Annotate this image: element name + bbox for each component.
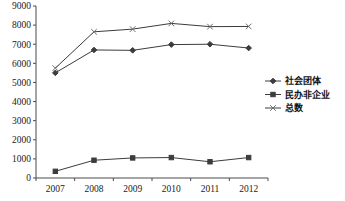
series-1-pt-4-marker-diamond — [207, 41, 213, 47]
y-tick-label: 8000 — [12, 20, 31, 30]
series-1-pt-2-marker-diamond — [130, 48, 136, 54]
series-1-pt-0-marker-diamond — [53, 70, 59, 76]
y-tick-label: 0 — [26, 173, 31, 183]
y-tick-label: 3000 — [12, 116, 31, 126]
series-1-pt-1-marker-diamond — [91, 47, 97, 53]
x-tick-label: 2009 — [123, 184, 142, 194]
legend-item-2[interactable]: 民办非企业 — [265, 89, 330, 100]
legend-label-3: 总数 — [285, 102, 304, 113]
legend-label-2: 民办非企业 — [285, 89, 330, 100]
series-2-pt-3-marker-square — [169, 155, 173, 159]
legend-item-1[interactable]: 社会团体 — [265, 75, 322, 86]
x-tick-label: 2007 — [46, 184, 65, 194]
legend-label-1: 社会团体 — [284, 75, 322, 86]
legend-1-marker-diamond — [270, 78, 276, 84]
series-line-1 — [55, 44, 248, 73]
x-tick-label: 2008 — [85, 184, 104, 194]
series-line-3 — [55, 23, 248, 68]
y-tick-label: 7000 — [12, 40, 31, 50]
x-tick-label: 2012 — [239, 184, 258, 194]
series-2-pt-2-marker-square — [130, 156, 134, 160]
series-1-pt-5-marker-diamond — [246, 45, 252, 51]
x-tick-label: 2011 — [201, 184, 220, 194]
series-2-pt-5-marker-square — [246, 155, 250, 159]
y-tick-label: 5000 — [12, 78, 31, 88]
series-2-pt-4-marker-square — [208, 160, 212, 164]
series-line-2 — [55, 158, 248, 172]
line-chart: 0100020003000400050006000700080009000200… — [0, 0, 345, 201]
y-tick-label: 6000 — [12, 59, 31, 69]
y-tick-label: 9000 — [12, 1, 31, 11]
series-2 — [53, 155, 251, 173]
legend-2-marker-square — [271, 92, 275, 96]
x-tick-label: 2010 — [162, 184, 181, 194]
series-1 — [53, 41, 252, 75]
y-tick-label: 4000 — [12, 97, 31, 107]
y-tick-label: 1000 — [12, 154, 31, 164]
y-tick-label: 2000 — [12, 135, 31, 145]
series-1-pt-3-marker-diamond — [169, 42, 175, 48]
series-2-pt-0-marker-square — [53, 169, 57, 173]
legend-item-3[interactable]: 总数 — [265, 102, 304, 113]
series-2-pt-1-marker-square — [92, 158, 96, 162]
chart-canvas: 0100020003000400050006000700080009000200… — [0, 0, 345, 201]
